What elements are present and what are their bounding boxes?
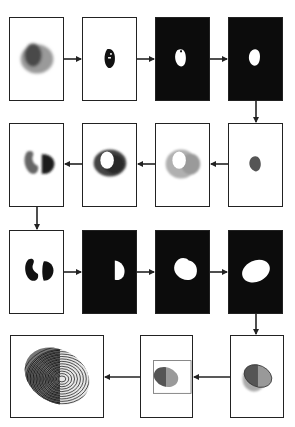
ellipse-overlay-icon — [231, 336, 283, 417]
step-8-split-halves — [9, 123, 64, 207]
step-1-input-blob — [9, 17, 64, 101]
mask-blob-icon — [229, 18, 282, 100]
step-3-binary-mask — [155, 17, 210, 101]
step-4-clean-mask — [228, 17, 283, 101]
cropped-ellipse-icon — [141, 336, 192, 417]
step-5-grey-region — [228, 123, 283, 207]
half-mask-icon — [83, 231, 136, 313]
dark-ring-icon — [83, 124, 136, 206]
step-14-cropped-box — [140, 335, 193, 418]
step-11-merged-mask — [155, 230, 210, 314]
dark-core-icon — [83, 18, 136, 100]
grey-blob-icon — [229, 124, 282, 206]
step-13-ellipse-overlay — [230, 335, 284, 418]
step-2-core — [82, 17, 137, 101]
step-6-light-ring — [155, 123, 210, 207]
step-7-dark-ring — [82, 123, 137, 207]
black-halves-icon — [10, 231, 63, 313]
step-10-half-mask — [82, 230, 137, 314]
mask-blob-icon — [156, 18, 209, 100]
step-12-ellipse-fit — [228, 230, 283, 314]
light-ring-icon — [156, 124, 209, 206]
split-halves-icon — [10, 124, 63, 206]
step-15-final-fingerprint — [10, 335, 104, 418]
merged-mask-icon — [156, 231, 209, 313]
step-9-black-halves — [9, 230, 64, 314]
two-tone-blob-icon — [10, 18, 63, 100]
ellipse-mask-icon — [229, 231, 282, 313]
fingerprint-icon — [11, 336, 103, 417]
